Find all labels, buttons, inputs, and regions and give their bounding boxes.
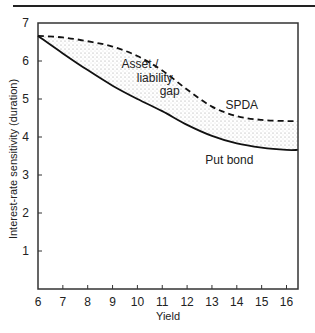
annotation-label: SPDA [225,98,258,112]
y-tick-label: 1 [22,244,29,258]
y-tick-label: 3 [22,168,29,182]
y-tick-label: 4 [22,130,29,144]
y-tick-label: 6 [22,54,29,68]
x-tick-label: 13 [205,295,219,309]
annotation-label: Asset / [122,57,159,71]
x-tick-label: 12 [180,295,194,309]
y-tick-label: 2 [22,206,29,220]
x-tick-label: 6 [35,295,42,309]
annotation-label: Put bond [205,153,253,167]
x-tick-label: 16 [280,295,294,309]
duration-chart: 1234567678910111213141516YieldInterest-r… [0,0,315,333]
x-tick-label: 11 [156,295,169,309]
x-tick-label: 7 [60,295,67,309]
y-tick-label: 5 [22,92,29,106]
annotation-label: gap [160,84,180,98]
x-tick-label: 10 [131,295,145,309]
annotation-label: liability [137,71,173,85]
x-tick-label: 8 [84,295,91,309]
x-tick-label: 15 [255,295,269,309]
x-tick-label: 9 [109,295,116,309]
x-tick-label: 14 [230,295,244,309]
y-tick-label: 7 [22,16,29,30]
x-axis-label: Yield [156,310,180,322]
y-axis-label: Interest-rate sensitivity (duration) [7,79,19,239]
